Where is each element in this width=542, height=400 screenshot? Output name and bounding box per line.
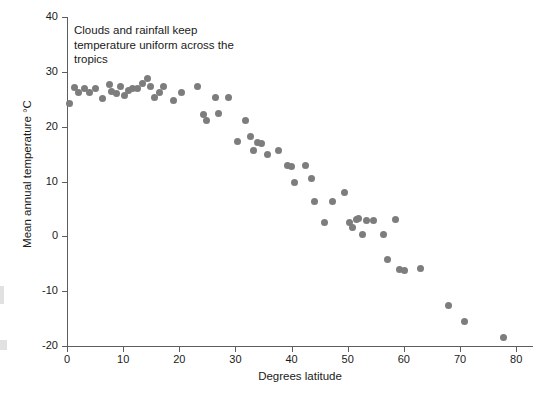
y-axis-tick-label: -10 bbox=[24, 284, 58, 296]
data-point bbox=[461, 318, 468, 325]
data-point bbox=[500, 334, 507, 341]
y-axis-tick bbox=[62, 127, 67, 128]
data-point bbox=[200, 111, 207, 118]
x-axis-tick bbox=[460, 347, 461, 352]
data-point bbox=[108, 88, 115, 95]
data-point bbox=[445, 302, 452, 309]
data-point bbox=[396, 266, 403, 273]
data-point bbox=[417, 265, 424, 272]
data-point bbox=[264, 151, 271, 158]
y-axis-tick bbox=[62, 291, 67, 292]
x-axis-line bbox=[67, 346, 533, 347]
y-axis-tick bbox=[62, 236, 67, 237]
data-point bbox=[86, 89, 93, 96]
x-axis-tick bbox=[292, 347, 293, 352]
x-axis-tick-label: 70 bbox=[440, 353, 480, 365]
data-point bbox=[215, 110, 222, 117]
data-point bbox=[170, 97, 177, 104]
data-point bbox=[392, 216, 399, 223]
scan-artifact-mark bbox=[0, 286, 4, 304]
x-axis-tick-label: 20 bbox=[159, 353, 199, 365]
data-point bbox=[160, 83, 167, 90]
data-point bbox=[178, 89, 185, 96]
data-point bbox=[288, 163, 295, 170]
data-point bbox=[254, 139, 261, 146]
data-point bbox=[225, 94, 232, 101]
data-point bbox=[156, 89, 163, 96]
data-point bbox=[370, 217, 377, 224]
data-point bbox=[291, 179, 298, 186]
x-axis-tick bbox=[348, 347, 349, 352]
data-point bbox=[99, 95, 106, 102]
data-point bbox=[117, 83, 124, 90]
y-axis-line bbox=[67, 17, 68, 346]
data-point bbox=[242, 117, 249, 124]
data-point bbox=[275, 147, 282, 154]
x-axis-tick-label: 0 bbox=[47, 353, 87, 365]
y-axis-tick-label: 0 bbox=[24, 229, 58, 241]
data-point bbox=[234, 138, 241, 145]
data-point bbox=[329, 198, 336, 205]
data-point bbox=[212, 94, 219, 101]
data-point bbox=[139, 80, 146, 87]
data-point bbox=[401, 267, 408, 274]
data-point bbox=[194, 83, 201, 90]
y-axis-tick-label: 40 bbox=[24, 10, 58, 22]
x-axis-tick bbox=[235, 347, 236, 352]
x-axis-tick-label: 40 bbox=[272, 353, 312, 365]
scatter-chart-figure: Mean annual temperature °C Degrees latit… bbox=[0, 0, 542, 400]
data-point bbox=[203, 117, 210, 124]
data-point bbox=[355, 215, 362, 222]
data-point bbox=[113, 90, 120, 97]
data-point bbox=[349, 224, 356, 231]
data-point bbox=[147, 83, 154, 90]
data-point bbox=[81, 85, 88, 92]
x-axis-tick bbox=[404, 347, 405, 352]
y-axis-tick-label: 10 bbox=[24, 175, 58, 187]
x-axis-tick bbox=[123, 347, 124, 352]
data-point bbox=[353, 216, 360, 223]
data-point bbox=[75, 89, 82, 96]
data-point bbox=[129, 85, 136, 92]
data-point bbox=[151, 94, 158, 101]
x-axis-title: Degrees latitude bbox=[167, 370, 433, 382]
y-axis-tick-label: 30 bbox=[24, 65, 58, 77]
y-axis-tick bbox=[62, 182, 67, 183]
data-point bbox=[71, 84, 78, 91]
data-point bbox=[363, 217, 370, 224]
data-point bbox=[258, 140, 265, 147]
x-axis-tick-label: 10 bbox=[103, 353, 143, 365]
data-point bbox=[284, 162, 291, 169]
data-point bbox=[121, 92, 128, 99]
x-axis-tick bbox=[516, 347, 517, 352]
y-axis-tick bbox=[62, 17, 67, 18]
scan-artifact-mark bbox=[0, 340, 7, 350]
x-axis-tick bbox=[179, 347, 180, 352]
data-point bbox=[380, 231, 387, 238]
data-point bbox=[144, 75, 151, 82]
data-point bbox=[341, 189, 348, 196]
data-point bbox=[125, 87, 132, 94]
y-axis-tick-label: -20 bbox=[24, 339, 58, 351]
x-axis-tick-label: 60 bbox=[384, 353, 424, 365]
chart-annotation: Clouds and rainfall keep temperature uni… bbox=[74, 23, 244, 67]
data-point bbox=[250, 147, 257, 154]
data-point bbox=[321, 219, 328, 226]
y-axis-tick-label: 20 bbox=[24, 120, 58, 132]
data-point bbox=[247, 133, 254, 140]
data-point bbox=[302, 162, 309, 169]
x-axis-tick-label: 80 bbox=[496, 353, 536, 365]
data-point bbox=[308, 175, 315, 182]
data-point bbox=[346, 219, 353, 226]
data-point bbox=[106, 81, 113, 88]
data-point bbox=[384, 256, 391, 263]
x-axis-tick bbox=[67, 347, 68, 352]
data-point bbox=[92, 85, 99, 92]
data-point bbox=[359, 231, 366, 238]
y-axis-tick bbox=[62, 72, 67, 73]
data-point bbox=[134, 85, 141, 92]
x-axis-tick-label: 50 bbox=[328, 353, 368, 365]
data-point bbox=[311, 198, 318, 205]
x-axis-tick-label: 30 bbox=[215, 353, 255, 365]
